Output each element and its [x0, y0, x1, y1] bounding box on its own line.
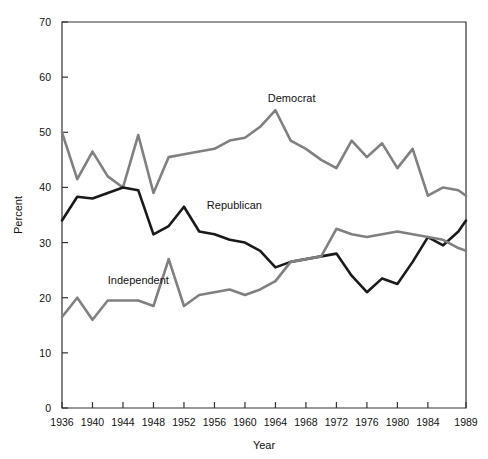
y-tick-label: 20: [39, 292, 51, 304]
x-tick-label: 1960: [233, 416, 257, 428]
x-tick-label: 1952: [172, 416, 196, 428]
y-tick-label: 40: [39, 181, 51, 193]
x-tick-label: 1968: [294, 416, 318, 428]
y-axis-tick-labels: 010203040506070: [39, 16, 51, 414]
y-tick-label: 50: [39, 126, 51, 138]
x-axis-tick-labels: 1936194019441948195219561960196419681972…: [50, 416, 478, 428]
x-tick-label: 1984: [416, 416, 440, 428]
x-tick-label: 1940: [81, 416, 105, 428]
y-tick-label: 30: [39, 237, 51, 249]
x-tick-label: 1956: [203, 416, 227, 428]
y-tick-label: 60: [39, 71, 51, 83]
party-identification-line-chart: 1936194019441948195219561960196419681972…: [0, 0, 488, 459]
x-axis-title: Year: [253, 439, 276, 451]
y-tick-label: 0: [45, 402, 51, 414]
x-tick-label: 1989: [454, 416, 478, 428]
chart-canvas: 1936194019441948195219561960196419681972…: [0, 0, 488, 459]
x-tick-label: 1976: [355, 416, 379, 428]
series-label-independent: Independent: [108, 274, 169, 286]
x-tick-label: 1948: [142, 416, 166, 428]
x-tick-label: 1972: [325, 416, 349, 428]
axes: [62, 22, 466, 408]
y-axis-title: Percent: [12, 196, 24, 234]
series-inline-labels: DemocratRepublicanIndependent: [108, 92, 316, 286]
tick-marks: [62, 22, 466, 408]
x-tick-label: 1936: [50, 416, 74, 428]
x-tick-label: 1980: [386, 416, 410, 428]
y-tick-label: 70: [39, 16, 51, 28]
series-line-democrat: [62, 110, 466, 195]
x-tick-label: 1944: [111, 416, 135, 428]
y-tick-label: 10: [39, 347, 51, 359]
plot-frame: [62, 22, 466, 408]
series-label-democrat: Democrat: [268, 92, 316, 104]
series-label-republican: Republican: [207, 199, 262, 211]
x-tick-label: 1964: [264, 416, 288, 428]
data-series-lines: [62, 110, 466, 320]
